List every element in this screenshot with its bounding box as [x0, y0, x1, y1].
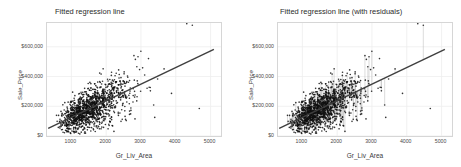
regression-line	[279, 49, 445, 128]
panel-fitted-regression: Fitted regression line Sale_Price Gr_Liv…	[0, 0, 230, 167]
x-tick-label: 1000	[56, 138, 84, 144]
y-tick-label: $200,000	[235, 102, 274, 108]
x-tick-label: 4000	[392, 138, 420, 144]
x-tick-label: 3000	[126, 138, 154, 144]
y-tick-label: $200,000	[4, 102, 43, 108]
x-tick-label: 1000	[287, 138, 315, 144]
x-axis-label-left: Gr_Liv_Area	[46, 152, 222, 159]
y-tick-label: $400,000	[235, 73, 274, 79]
panel-title-right: Fitted regression line (with residuals)	[280, 7, 402, 16]
plot-area-left	[46, 22, 222, 137]
y-tick-label: $0	[4, 132, 43, 138]
y-tick-label: $600,000	[4, 43, 43, 49]
x-tick-label: 2000	[322, 138, 350, 144]
x-tick-label: 3000	[357, 138, 385, 144]
x-tick-label: 2000	[91, 138, 119, 144]
y-tick-label: $600,000	[235, 43, 274, 49]
x-axis-label-right: Gr_Liv_Area	[277, 152, 453, 159]
y-tick-label: $400,000	[4, 73, 43, 79]
y-tick-label: $0	[235, 132, 274, 138]
data-points	[56, 23, 200, 135]
scatter-canvas	[278, 23, 452, 136]
figure-root: Fitted regression line Sale_Price Gr_Liv…	[0, 0, 461, 167]
x-tick-label: 5000	[196, 138, 224, 144]
regression-line	[48, 49, 214, 128]
plot-area-right	[277, 22, 453, 137]
scatter-canvas	[47, 23, 221, 136]
data-points	[287, 23, 431, 135]
x-tick-label: 5000	[427, 138, 455, 144]
x-tick-label: 4000	[161, 138, 189, 144]
panel-fitted-regression-residuals: Fitted regression line (with residuals) …	[230, 0, 461, 167]
panel-title-left: Fitted regression line	[55, 7, 125, 16]
